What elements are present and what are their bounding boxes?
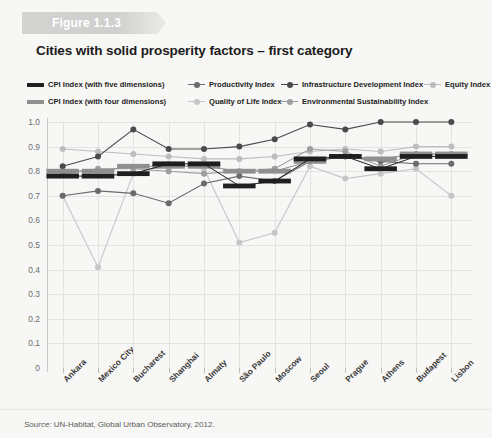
data-point <box>272 230 278 236</box>
data-series-layer <box>48 122 472 368</box>
legend-item[interactable]: Environmental Sustainability Index <box>281 95 428 108</box>
data-point <box>166 146 172 152</box>
figure-title: Cities with solid prosperity factors – f… <box>36 43 466 58</box>
legend-item-label: Infrastructure Development Index <box>302 80 423 89</box>
data-point <box>236 156 242 162</box>
figure-card: Figure 1.1.3 Cities with solid prosperit… <box>0 0 492 438</box>
y-axis-tick-label: 0 <box>14 363 40 373</box>
data-point <box>130 151 136 157</box>
y-axis-tick-label: 0.1 <box>14 338 40 348</box>
legend-dot-icon <box>430 82 436 88</box>
data-point <box>342 176 348 182</box>
data-point <box>272 153 278 159</box>
legend-item-label: Environmental Sustainability Index <box>302 97 428 106</box>
data-point <box>201 171 207 177</box>
data-point <box>130 190 136 196</box>
data-point <box>342 126 348 132</box>
y-axis-tick-label: 0.5 <box>14 240 40 250</box>
y-axis-tick-label: 0.2 <box>14 314 40 324</box>
data-point <box>448 144 454 150</box>
data-point <box>166 168 172 174</box>
footer-divider <box>0 409 492 410</box>
y-axis-tick-label: 0.8 <box>14 166 40 176</box>
data-point <box>95 188 101 194</box>
series-line <box>63 164 452 267</box>
legend-item[interactable]: Equity Index <box>424 78 490 91</box>
legend-item-label: CPI Index (with four dimensions) <box>48 97 166 106</box>
data-point <box>236 240 242 246</box>
y-axis-tick-label: 1.0 <box>14 117 40 127</box>
data-point <box>413 144 419 150</box>
data-point <box>201 181 207 187</box>
data-point <box>201 146 207 152</box>
y-axis-tick-label: 0.3 <box>14 289 40 299</box>
data-point <box>60 193 66 199</box>
legend-marker-swatch-icon <box>188 80 205 89</box>
x-axis-tick <box>63 368 64 373</box>
source-note: Source: UN-Habitat, Global Urban Observa… <box>24 420 215 429</box>
y-axis-tick-label: 0.6 <box>14 215 40 225</box>
legend-item[interactable]: CPI Index (with four dimensions) <box>27 95 166 108</box>
legend-item-label: Equity Index <box>445 80 490 89</box>
legend-marker-swatch-icon <box>281 80 298 89</box>
data-point <box>60 163 66 169</box>
data-point <box>378 119 384 125</box>
x-axis-tick <box>381 368 382 373</box>
legend-item-label: Productivity Index <box>209 80 275 89</box>
series-4 <box>60 161 455 270</box>
chart-legend: CPI Index (with five dimensions)Producti… <box>27 78 477 108</box>
source-prefix: Source: <box>24 420 52 429</box>
y-axis-tick-label: 0.4 <box>14 265 40 275</box>
legend-item[interactable]: Productivity Index <box>188 78 275 91</box>
data-point <box>60 146 66 152</box>
data-point <box>378 149 384 155</box>
legend-item[interactable]: Infrastructure Development Index <box>281 78 423 91</box>
plot-area <box>48 122 472 368</box>
data-point <box>448 193 454 199</box>
y-axis-tick-label: 0.9 <box>14 142 40 152</box>
legend-dot-icon <box>287 82 293 88</box>
source-text: UN-Habitat, Global Urban Observatory, 20… <box>52 420 215 429</box>
data-point <box>166 153 172 159</box>
data-point <box>236 144 242 150</box>
data-point <box>307 121 313 127</box>
data-point <box>272 136 278 142</box>
data-point <box>236 173 242 179</box>
data-point <box>448 119 454 125</box>
data-point <box>130 126 136 132</box>
legend-marker-swatch-icon <box>424 80 441 89</box>
x-axis-tick <box>169 368 170 373</box>
data-point <box>307 146 313 152</box>
legend-item[interactable]: CPI Index (with five dimensions) <box>27 78 164 91</box>
figure-number-label: Figure 1.1.3 <box>52 16 121 30</box>
legend-dot-icon <box>287 99 293 105</box>
data-point <box>413 119 419 125</box>
legend-dot-icon <box>194 82 200 88</box>
data-point <box>95 264 101 270</box>
x-axis-tick <box>275 368 276 373</box>
data-point <box>95 153 101 159</box>
data-point <box>166 200 172 206</box>
legend-marker-swatch-icon <box>281 97 298 106</box>
data-point <box>448 161 454 167</box>
data-point <box>413 161 419 167</box>
legend-item-label: Quality of Life Index <box>209 97 282 106</box>
y-axis-tick-label: 0.7 <box>14 191 40 201</box>
legend-item[interactable]: Quality of Life Index <box>188 95 282 108</box>
series-line <box>63 156 452 203</box>
legend-bar-swatch-icon <box>27 83 44 87</box>
legend-item-label: CPI Index (with five dimensions) <box>48 80 164 89</box>
legend-bar-swatch-icon <box>27 100 44 104</box>
legend-marker-swatch-icon <box>188 97 205 106</box>
data-point <box>378 171 384 177</box>
legend-dot-icon <box>194 99 200 105</box>
data-point <box>201 156 207 162</box>
